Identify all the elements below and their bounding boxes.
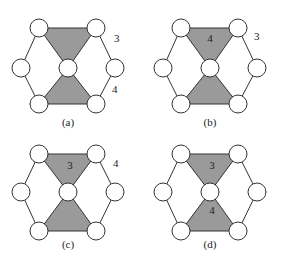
- node-bottom-right: [87, 222, 105, 240]
- panel-caption: (b): [204, 116, 217, 129]
- node-bottom-left: [30, 222, 48, 240]
- node-right: [106, 59, 124, 77]
- node-center: [201, 183, 219, 201]
- node-top-left: [172, 19, 190, 37]
- node-top-left: [30, 145, 48, 163]
- node-top-right: [229, 19, 247, 37]
- node-bottom-right: [87, 95, 105, 113]
- upper-triangle-label: 4: [207, 32, 213, 44]
- node-center: [59, 59, 77, 77]
- panel-caption: (d): [204, 238, 217, 251]
- node-top-right: [87, 19, 105, 37]
- panel-caption: (c): [62, 238, 75, 251]
- panel-a: 3 4 (a): [12, 19, 124, 129]
- panel-d: 3 4 (d): [154, 145, 266, 251]
- node-bottom-right: [229, 95, 247, 113]
- outer-label-top: 4: [113, 157, 119, 169]
- node-bottom-left: [30, 95, 48, 113]
- node-center: [201, 59, 219, 77]
- node-left: [154, 183, 172, 201]
- panel-b: 4 3 (b): [154, 19, 266, 129]
- node-bottom-left: [172, 95, 190, 113]
- upper-triangle-label: 3: [209, 159, 215, 171]
- node-top-right: [229, 145, 247, 163]
- panel-caption: (a): [62, 116, 75, 129]
- upper-triangle-label: 3: [67, 159, 73, 171]
- outer-label-top: 3: [114, 32, 120, 44]
- node-left: [154, 59, 172, 77]
- node-top-right: [87, 145, 105, 163]
- node-left: [12, 183, 30, 201]
- panel-c: 3 4 (c): [12, 145, 124, 251]
- node-left: [12, 59, 30, 77]
- node-bottom-left: [172, 222, 190, 240]
- node-right: [248, 183, 266, 201]
- outer-label-bottom: 4: [112, 83, 118, 95]
- node-right: [106, 183, 124, 201]
- diagram-canvas: 3 4 (a) 4 3 (b) 3 4 (c): [0, 0, 284, 258]
- node-top-left: [172, 145, 190, 163]
- node-top-left: [30, 19, 48, 37]
- outer-label-top: 3: [254, 30, 260, 42]
- lower-triangle-label: 4: [209, 204, 215, 216]
- node-bottom-right: [229, 222, 247, 240]
- node-center: [59, 183, 77, 201]
- node-right: [248, 59, 266, 77]
